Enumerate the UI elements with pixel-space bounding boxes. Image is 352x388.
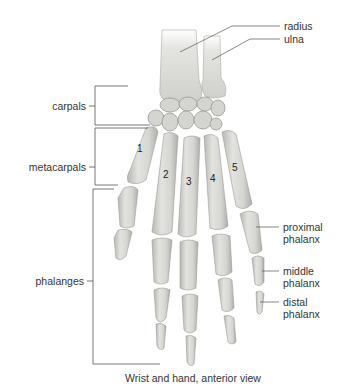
- ulna-leader: [212, 39, 280, 60]
- label-carpals: carpals: [52, 100, 86, 112]
- digit-number-4: 4: [210, 174, 216, 184]
- label-proximal-line2: phalanx: [283, 233, 323, 245]
- label-proximal-phalanx: proximal phalanx: [283, 221, 323, 245]
- label-distal-line1: distal: [283, 296, 320, 308]
- digit-1-bones: [114, 127, 158, 260]
- digit-2-bones: [152, 132, 178, 349]
- label-ulna: ulna: [284, 33, 304, 45]
- carpals-bracket: [95, 86, 150, 125]
- label-phalanges: phalanges: [36, 275, 84, 287]
- label-proximal-line1: proximal: [283, 221, 323, 233]
- label-middle-line1: middle: [283, 265, 320, 277]
- digit-number-2: 2: [163, 170, 169, 180]
- hand-skeleton-diagram: [0, 0, 352, 388]
- digit-number-1: 1: [137, 144, 143, 154]
- label-middle-phalanx: middle phalanx: [283, 265, 320, 289]
- digit-3-bones: [178, 136, 200, 366]
- label-metacarpals: metacarpals: [29, 161, 86, 173]
- label-radius: radius: [284, 20, 313, 32]
- figure-caption: Wrist and hand, anterior view: [0, 372, 352, 384]
- radius-bone: [160, 30, 202, 103]
- ulna-bone: [202, 36, 226, 98]
- carpal-bones: [148, 97, 225, 131]
- label-middle-line2: phalanx: [283, 277, 320, 289]
- label-distal-line2: phalanx: [283, 308, 320, 320]
- label-distal-phalanx: distal phalanx: [283, 296, 320, 320]
- digit-number-3: 3: [186, 177, 192, 187]
- digit-number-5: 5: [232, 163, 238, 173]
